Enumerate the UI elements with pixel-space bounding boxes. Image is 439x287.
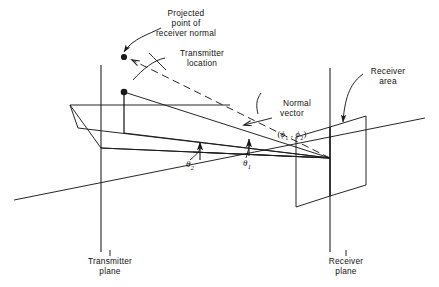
projected-normal-point-dot [121, 54, 127, 60]
label-receiver-area: Receiver area [360, 66, 416, 86]
label-normal-vector: Normal vector (ϕ1 , ϕ2) [256, 88, 328, 163]
label-theta-2: θ2 [186, 159, 206, 173]
label-receiver-plane: Receiver plane [298, 256, 394, 276]
transmitter-location-point-dot [121, 89, 128, 96]
ground-reference-line [14, 118, 425, 200]
leader-transmitter-location [133, 58, 165, 80]
transmitter-plane-left-depth-edge [70, 105, 101, 148]
figure-container: Projected point of receiver normal Trans… [0, 0, 439, 287]
label-transmitter-location: Transmitter location [168, 48, 236, 68]
phi-separator: , [288, 129, 295, 139]
theta-1-subscript: 1 [248, 163, 251, 170]
label-normal-vector-title: Normal vector [280, 98, 311, 118]
leader-transmitter-location-cross [149, 53, 166, 70]
label-projected-point-of-receiver-normal: Projected point of receiver normal [140, 8, 232, 39]
theta-2-subscript: 2 [191, 164, 194, 171]
label-normal-vector-parameters: (ϕ1 , ϕ2) [256, 129, 328, 143]
diagram-canvas [0, 0, 439, 287]
transmitter-plane-upper-depth-edge [70, 105, 78, 128]
label-transmitter-plane: Transmitter plane [62, 256, 158, 276]
paren-close: ) [303, 129, 306, 139]
label-theta-1: θ1 [243, 158, 263, 172]
receiver-area-back-face [330, 116, 366, 196]
